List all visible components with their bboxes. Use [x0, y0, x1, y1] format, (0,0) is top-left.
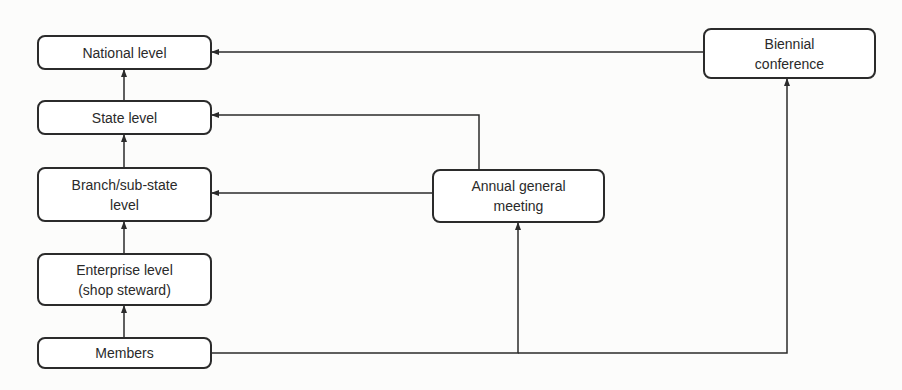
edge-agm-to-state [212, 115, 479, 169]
node-state-level: State level [37, 100, 212, 135]
edge-members-to-agm [211, 223, 518, 353]
node-national-level: National level [37, 35, 212, 70]
node-annual-general-meeting: Annual general meeting [432, 169, 605, 223]
union-structure-diagram: National level State level Branch/sub-st… [0, 0, 902, 390]
node-enterprise-level: Enterprise level (shop steward) [37, 253, 212, 306]
node-members: Members [37, 337, 212, 369]
node-biennial-conference: Biennial conference [703, 28, 876, 79]
node-branch-level: Branch/sub-state level [37, 167, 212, 222]
